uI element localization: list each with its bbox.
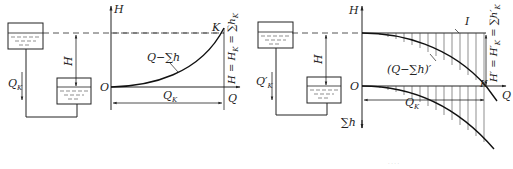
line-i-leader [455,29,459,33]
point-k-label: K [212,22,220,33]
origin-label-right: O [350,81,359,92]
h-axis-label: H [114,4,124,15]
sum-h-axis-label: ∑h [341,117,356,128]
q-axis-label-right: Q [502,90,511,101]
curve-label-right: (Q−∑h)′ [387,64,431,75]
qk-dimension-label: QK [163,90,177,104]
origin-label: O [100,82,109,93]
flow-label: QK [8,78,22,92]
flow-label-right: Q′K [256,76,273,90]
head-label-right: H [313,54,324,64]
line-i-label: I [465,16,469,27]
right-system [258,22,362,115]
curve-leader-line [170,63,178,72]
head-relation-label-right: H′ = H′K = ∑h′K [489,4,502,82]
head-relation-label: H = HK = ∑hK [227,13,240,84]
diagram-canvas: QK H H O K Q−∑h QK H = HK = ∑hK Q Q′K H … [0,0,513,169]
qk-dimension-label-right: QK [405,97,419,111]
point-k-label-right: K [480,79,487,89]
curve-leader-line-right [430,54,436,61]
figure-caption: · · · · [388,160,399,166]
q-axis-label: Q [228,93,237,104]
curve-label: Q−∑h [147,52,180,63]
head-label: H [63,56,74,66]
h-axis-label-right: H [349,5,359,16]
